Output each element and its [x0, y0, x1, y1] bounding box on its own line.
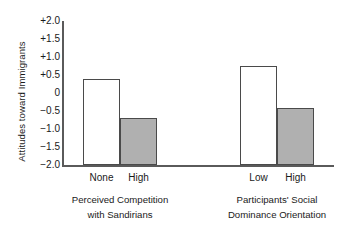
group-caption-line: with Sandirians	[72, 207, 169, 222]
bar-chart-figure: Attitudes toward Immigrants +2.0 +1.5 +1…	[0, 0, 356, 234]
y-tick-label: −1.0	[26, 124, 60, 134]
y-tick-label: +2.0	[26, 16, 60, 26]
y-axis-tick-labels: +2.0 +1.5 +1.0 +0.5 0 −0.5 −1.0 −1.5 −2.…	[22, 0, 60, 234]
x-tick-label: None	[90, 172, 114, 183]
y-tick-label: 0	[26, 88, 60, 98]
group-caption-line: Perceived Competition	[72, 192, 169, 207]
y-tick-label: −0.5	[26, 106, 60, 116]
x-tick-label: High	[128, 172, 149, 183]
y-tick-label: +1.5	[26, 34, 60, 44]
group-caption: Participants' SocialDominance Orientatio…	[228, 192, 326, 222]
bar-none-positive	[83, 79, 120, 165]
y-tick-label: +1.0	[26, 52, 60, 62]
category-tick-labels: NoneHighLowHigh	[62, 172, 334, 186]
group-caption: Perceived Competitionwith Sandirians	[72, 192, 169, 222]
group-caption-line: Participants' Social	[228, 192, 326, 207]
plot-area	[62, 21, 334, 165]
x-tick-label: Low	[249, 172, 267, 183]
bar-high-negative	[120, 118, 157, 165]
x-axis-line	[62, 165, 334, 167]
group-caption-line: Dominance Orientation	[228, 207, 326, 222]
bar-low-positive	[240, 66, 277, 165]
y-tick-label: −1.5	[26, 142, 60, 152]
y-axis-line	[62, 21, 64, 165]
bar-high-negative	[277, 108, 314, 165]
x-tick-label: High	[285, 172, 306, 183]
y-tick-label: −2.0	[26, 160, 60, 170]
group-captions: Perceived Competitionwith SandiriansPart…	[62, 192, 334, 230]
y-tick-label: +0.5	[26, 70, 60, 80]
